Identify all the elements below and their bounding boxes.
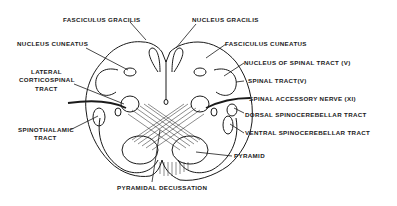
label-spinothalamic-2: TRACT (34, 134, 57, 141)
leader-pyramidal-decussation (152, 130, 160, 182)
nucleus-cuneatus-right (194, 68, 206, 76)
dorsal-spinocerebellar-right (227, 104, 237, 116)
label-fasciculus-gracilis: FASCICULUS GRACILIS (63, 16, 140, 23)
label-dorsal-spinocerebellar: DORSAL SPINOCEREBELLAR TRACT (245, 111, 367, 118)
nucleus-gracilis-right (172, 48, 183, 72)
label-nucleus-cuneatus: NUCLEUS CUNEATUS (17, 40, 88, 47)
pyramid-left (122, 136, 158, 164)
label-spinal-accessory-nerve: SPINAL ACCESSORY NERVE (XI) (249, 95, 356, 102)
leader-nucleus-cuneatus (86, 48, 128, 70)
decussation-hatching (128, 104, 204, 150)
label-lateral-corticospinal-3: TRACT (35, 85, 58, 92)
label-nucleus-spinal-tract: NUCLEUS OF SPINAL TRACT (V) (244, 59, 351, 66)
pyramid-right (172, 136, 208, 164)
nucleus-spinal-tract-right (214, 69, 236, 95)
leader-dorsal-spinocerebellar (234, 108, 244, 113)
leader-pyramid (196, 152, 232, 156)
nucleus-gracilis-left (149, 48, 160, 72)
label-spinal-tract: SPINAL TRACT(V) (248, 77, 307, 84)
label-lateral-corticospinal-1: LATERAL (31, 68, 62, 75)
leader-nucleus-gracilis (176, 24, 196, 48)
label-spinothalamic-1: SPINOTHALAMIC (18, 126, 74, 133)
ventral-hatching (160, 162, 188, 176)
leader-spinal-tract (236, 81, 244, 82)
spinal-accessory-nerve (68, 101, 126, 108)
label-nucleus-gracilis: NUCLEUS GRACILIS (192, 16, 259, 23)
leader-spinothalamic (70, 116, 98, 130)
small-nucleus-right (211, 108, 217, 116)
label-lateral-corticospinal-2: CORTICOSPINAL (19, 76, 75, 83)
medulla-diagram: FASCICULUS GRACILIS NUCLEUS GRACILIS NUC… (0, 0, 397, 206)
central-canal (164, 100, 168, 105)
small-nucleus-left (115, 108, 121, 116)
label-pyramidal-decussation: PYRAMIDAL DECUSSATION (117, 184, 207, 191)
medulla-cross-section-drawing: FASCICULUS GRACILIS NUCLEUS GRACILIS NUC… (0, 0, 397, 206)
label-pyramid: PYRAMID (234, 152, 265, 159)
label-ventral-spinocerebellar: VENTRAL SPINOCEREBELLAR TRACT (245, 129, 370, 136)
leader-fasciculus-gracilis (130, 22, 146, 40)
label-fasciculus-cuneatus: FASCICULUS CUNEATUS (225, 40, 307, 47)
nucleus-spinal-tract-left (96, 69, 118, 95)
